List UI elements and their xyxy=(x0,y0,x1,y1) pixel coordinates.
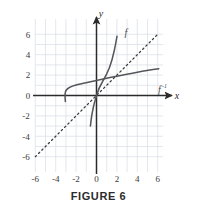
coordinate-plot: x y f f -1 -6 -4 -2 0 2 4 6 6 4 xyxy=(0,0,197,190)
y-tick-label: 0 xyxy=(26,91,31,101)
y-tick-label: 2 xyxy=(26,70,31,80)
figure-caption: FIGURE 6 xyxy=(0,190,197,202)
x-tick-label: 0 xyxy=(94,174,99,184)
y-tick-label: 4 xyxy=(26,50,31,60)
y-tick-label: 6 xyxy=(26,30,31,40)
y-tick-labels: 6 4 2 0 -2 -4 -6 xyxy=(22,30,31,162)
y-tick-label: -6 xyxy=(22,152,30,162)
y-tick-label: -4 xyxy=(22,132,30,142)
x-tick-label: 4 xyxy=(135,174,140,184)
x-tick-label: 6 xyxy=(155,174,160,184)
y-tick-label: -2 xyxy=(22,111,30,121)
x-axis-label: x xyxy=(174,90,180,101)
curve-label-f-inverse-exponent: -1 xyxy=(162,83,167,89)
x-tick-label: 2 xyxy=(115,174,120,184)
x-tick-label: -4 xyxy=(52,174,60,184)
x-tick-labels: -6 -4 -2 0 2 4 6 xyxy=(32,174,161,184)
x-tick-label: -2 xyxy=(72,174,80,184)
figure-6-container: x y f f -1 -6 -4 -2 0 2 4 6 6 4 xyxy=(0,0,197,214)
plot-svg: x y f f -1 -6 -4 -2 0 2 4 6 6 4 xyxy=(0,0,197,190)
x-tick-label: -6 xyxy=(32,174,40,184)
curve-label-f: f xyxy=(125,27,129,38)
y-axis-label: y xyxy=(98,8,104,19)
curve-label-f-inverse: f -1 xyxy=(158,83,167,95)
